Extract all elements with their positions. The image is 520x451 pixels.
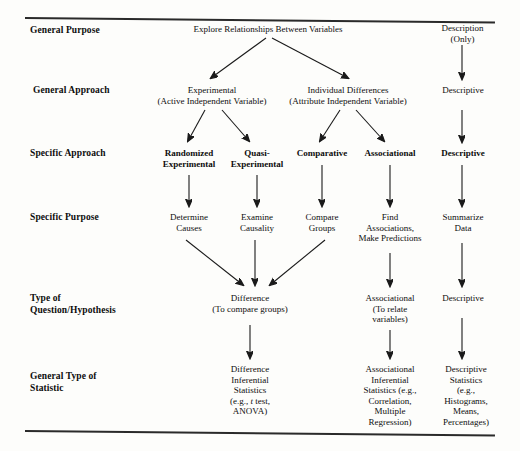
row-label-general-type-statistic: General Type of Statistic [30, 371, 97, 394]
node-quasi-experimental: Quasi- Experimental [224, 148, 290, 169]
arrow-experimental-to-quasi [222, 110, 249, 141]
arrow-explore-to-individual-differences [272, 38, 348, 78]
row-label-general-purpose: General Purpose [30, 25, 100, 37]
difference-statistic-eg: (e.g., [230, 396, 251, 406]
node-find-associations: Find Associations, Make Predictions [352, 212, 428, 244]
row-label-specific-purpose: Specific Purpose [30, 212, 99, 224]
node-compare-groups: Compare Groups [289, 212, 355, 233]
node-examine-causality: Examine Causality [224, 212, 290, 233]
arrow-explore-to-experimental [211, 38, 266, 78]
node-determine-causes: Determine Causes [156, 212, 222, 233]
arrow-individual-to-comparative [320, 110, 340, 141]
node-summarize-data: Summarize Data [428, 212, 498, 233]
bottom-rule [25, 430, 495, 437]
arrow-experimental-to-randomized [188, 110, 205, 141]
node-descriptive-specific: Descriptive [428, 148, 498, 159]
difference-statistic-line1: Difference Inferential Statistics [231, 364, 269, 395]
node-associational-statistic: Associational Inferential Statistics (e.… [352, 364, 428, 427]
node-difference-question: Difference (To compare groups) [190, 293, 310, 314]
node-descriptive-approach: Descriptive [428, 85, 498, 96]
node-explore-relationships: Explore Relationships Between Variables [178, 24, 358, 35]
row-label-general-approach: General Approach [33, 85, 110, 97]
arrow-individual-to-associational [356, 110, 384, 141]
arrow-determine-causes-to-difference [186, 240, 243, 285]
node-associational-question: Associational (To relate variables) [352, 293, 428, 325]
node-experimental: Experimental (Active Independent Variabl… [148, 85, 276, 106]
node-difference-statistic: Difference Inferential Statistics(e.g., … [212, 364, 288, 417]
node-individual-differences: Individual Differences (Attribute Indepe… [278, 85, 418, 106]
node-description-only: Description (Only) [425, 23, 500, 44]
node-associational: Associational [355, 148, 425, 159]
node-descriptive-question: Descriptive [428, 293, 498, 304]
node-descriptive-statistic: Descriptive Statistics (e.g., Histograms… [428, 364, 504, 427]
node-randomized-experimental: Randomized Experimental [156, 148, 222, 169]
arrow-compare-groups-to-difference [270, 240, 325, 285]
row-label-specific-approach: Specific Approach [30, 148, 106, 160]
row-label-type-of-question: Type of Question/Hypothesis [30, 293, 116, 316]
node-comparative: Comparative [289, 148, 355, 159]
flowchart-figure: General Purpose General Approach Specifi… [0, 0, 520, 451]
